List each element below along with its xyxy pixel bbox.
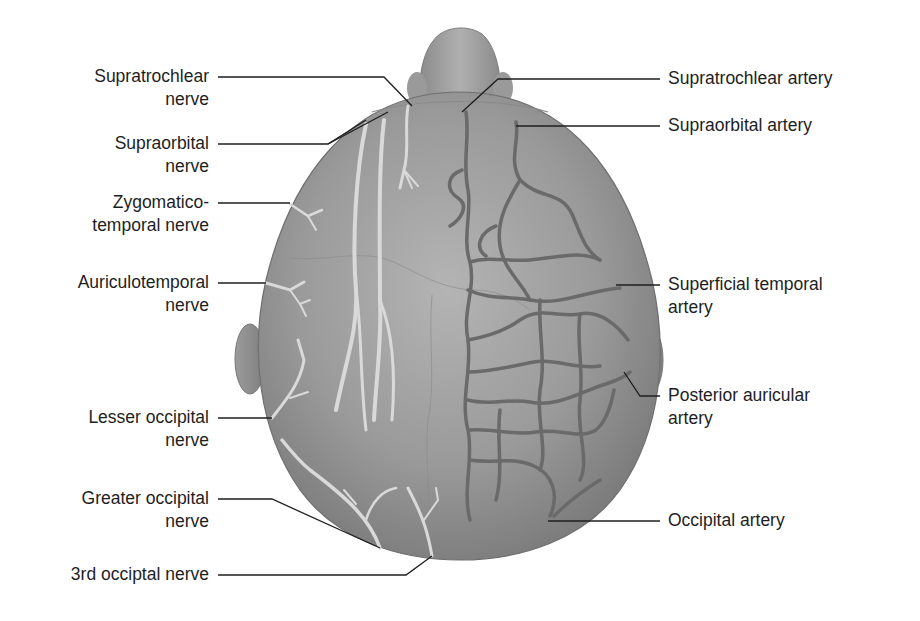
label-third-occipital-nerve: 3rd occiptal nerve bbox=[71, 563, 209, 586]
label-posterior-auricular-artery: Posterior auricular artery bbox=[668, 384, 810, 430]
label-supratrochlear-nerve: Supratrochlear nerve bbox=[94, 65, 209, 111]
label-auriculotemporal-nerve: Auriculotemporal nerve bbox=[78, 271, 209, 317]
label-lesser-occipital-nerve: Lesser occipital nerve bbox=[88, 406, 209, 452]
head-outline bbox=[258, 92, 660, 560]
label-greater-occipital-nerve: Greater occipital nerve bbox=[82, 487, 209, 533]
label-supraorbital-nerve: Supraorbital nerve bbox=[115, 132, 209, 178]
label-zygomaticotemporal-nerve: Zygomatico- temporal nerve bbox=[92, 191, 209, 237]
label-superficial-temporal-artery: Superficial temporal artery bbox=[668, 273, 823, 319]
label-supraorbital-artery: Supraorbital artery bbox=[668, 114, 812, 137]
leader-supratrochlear-nerve bbox=[218, 77, 412, 106]
leader-third-occipital-nerve bbox=[218, 556, 432, 575]
label-occipital-artery: Occipital artery bbox=[668, 509, 785, 532]
label-supratrochlear-artery: Supratrochlear artery bbox=[668, 67, 832, 90]
